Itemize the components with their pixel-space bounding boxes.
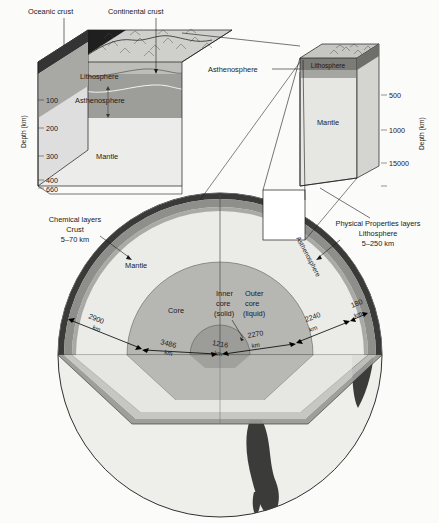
label-continental-crust: Continental crust <box>108 7 163 16</box>
legend-right-layer: Lithosphere <box>359 229 398 238</box>
globe-label-outer-core-1: Outer <box>245 289 264 298</box>
left-tick-400: 400 <box>46 176 58 185</box>
label-asthenosphere-callout: Asthenosphere <box>208 65 258 74</box>
dim-2270-unit: km <box>251 341 260 349</box>
globe-label-mantle: Mantle <box>125 261 147 270</box>
legend-right-thickness: 5–250 km <box>362 239 394 248</box>
globe-inset-rectangle[interactable] <box>263 190 305 240</box>
dim-1216-unit: km <box>214 349 223 357</box>
legend-left-thickness: 5–70 km <box>61 235 89 244</box>
left-depth-axis-label: Depth (km) <box>20 115 28 148</box>
globe-label-outer-core-2: core <box>245 299 259 308</box>
left-label-lithosphere: Lithosphere <box>80 72 119 81</box>
label-oceanic-crust: Oceanic crust <box>28 7 73 16</box>
globe-label-core: Core <box>168 306 184 315</box>
left-tick-100: 100 <box>46 96 58 105</box>
right-asthenosphere-band <box>300 70 357 78</box>
diagram-canvas: 100 200 300 400 660 Depth (km) Lithosphe… <box>0 0 439 523</box>
legend-left-heading: Chemical layers <box>49 215 102 224</box>
right-tick-15000: 15000 <box>389 159 409 168</box>
right-tick-500: 500 <box>389 91 401 100</box>
left-label-mantle: Mantle <box>96 152 118 161</box>
globe-label-outer-core-3: (liquid) <box>243 309 265 318</box>
right-block-front-face <box>300 72 357 186</box>
left-tick-200: 200 <box>46 124 58 133</box>
earth-structure-figure: 100 200 300 400 660 Depth (km) Lithosphe… <box>0 0 439 523</box>
legend-left-layer: Crust <box>66 225 84 234</box>
left-tick-300: 300 <box>46 152 58 161</box>
globe-label-inner-core-1: Inner <box>216 289 233 298</box>
legend-right-heading: Physical Properties layers <box>335 219 420 228</box>
right-tick-1000: 1000 <box>389 126 405 135</box>
right-label-mantle: Mantle <box>317 118 339 127</box>
left-tick-660: 660 <box>46 185 58 194</box>
globe-label-inner-core-3: (solid) <box>214 309 234 318</box>
right-depth-axis-label: Depth (km) <box>418 117 426 150</box>
globe-label-inner-core-2: core <box>216 299 230 308</box>
right-label-lithosphere: Lithosphere <box>311 62 346 70</box>
left-label-asthenosphere: Asthenosphere <box>75 96 125 105</box>
